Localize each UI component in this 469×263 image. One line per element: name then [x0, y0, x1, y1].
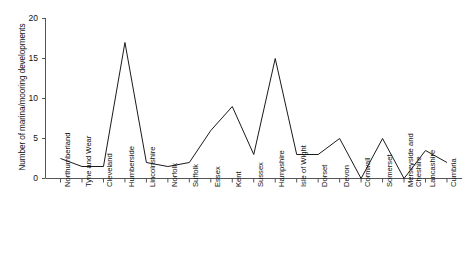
- x-axis-tick-label: Cornwall: [364, 157, 372, 187]
- x-axis-tick-label: Isle of Wight: [300, 145, 308, 187]
- x-axis-tick-label: Cleveland: [106, 153, 114, 187]
- x-axis-tick-label: Somerset: [386, 154, 394, 187]
- x-axis-tick-label: Dorset: [321, 164, 329, 186]
- x-axis-tick-label: Suffolk: [192, 163, 200, 186]
- x-axis-tick-label: Sussex: [257, 162, 265, 187]
- x-axis-tick-label: Cumbria: [450, 158, 458, 187]
- x-axis-tick-label: Kent: [235, 171, 243, 187]
- x-axis-tick-labels: NorthumberlandTyne and WearClevelandHumb…: [0, 0, 469, 263]
- x-axis-tick-label: Essex: [214, 166, 222, 187]
- x-axis-tick-label: Merseyside and Cheshire: [407, 129, 424, 187]
- x-axis-tick-label: Lincolnshire: [149, 146, 157, 187]
- line-chart: Number of marina/mooring developments 05…: [0, 0, 469, 263]
- x-axis-tick-label: Hampshire: [278, 150, 286, 187]
- x-axis-tick-label: Northumberland: [64, 132, 72, 186]
- x-axis-tick-label: Lancashire: [429, 149, 437, 186]
- x-axis-tick-label: Tyne and Wear: [85, 135, 93, 186]
- x-axis-tick-label: Norfolk: [171, 162, 179, 186]
- x-axis-tick-label: Humberside: [128, 146, 136, 187]
- x-axis-tick-label: Devon: [343, 165, 351, 187]
